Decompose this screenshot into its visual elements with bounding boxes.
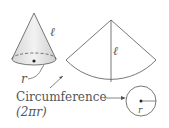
radius-label-cone: r — [21, 73, 27, 85]
circumference-label: Circumference — [16, 91, 107, 103]
sector-net — [50, 20, 156, 88]
base-circle — [104, 86, 156, 116]
radius-label-base: r — [138, 106, 142, 115]
slant-height-label-cone: ℓ — [50, 26, 55, 38]
slant-height-label-sector: ℓ — [113, 45, 118, 57]
circumference-formula: (2πr) — [16, 106, 47, 118]
cone-figure — [12, 13, 56, 79]
